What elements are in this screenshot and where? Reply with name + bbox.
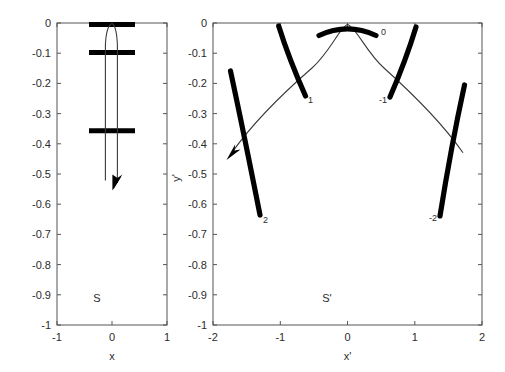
left-ytick-8: -0.8 [32,259,51,271]
left-xtick-2: 1 [164,331,170,343]
right-trajectory-arrowhead [227,144,241,160]
left-ytick-1: -0.1 [32,47,51,59]
right-wavefronts [231,26,465,216]
right-ytick-2: -0.2 [188,77,207,89]
left-x-ticks [57,23,167,325]
right-ytick-3: -0.3 [188,108,207,120]
right-xtick-3: 1 [412,331,418,343]
figure-two-frame-wavefronts: 0 -0.1 -0.2 -0.3 -0.4 -0.5 -0.6 -0.7 -0.… [0,0,505,372]
right-wavefront-1-right [390,27,416,97]
left-ytick-5: -0.5 [32,168,51,180]
right-ytick-10: -1 [197,319,207,331]
right-ytick-0: 0 [201,17,207,29]
right-wavefront-0 [319,29,376,36]
right-ytick-7: -0.7 [188,228,207,240]
right-label-1: 1 [308,95,313,105]
left-y-ticklabels: 0 -0.1 -0.2 -0.3 -0.4 -0.5 -0.6 -0.7 -0.… [32,17,51,331]
right-wavefront-2-left [231,71,261,215]
right-xtick-4: 2 [479,331,485,343]
left-ytick-6: -0.6 [32,198,51,210]
right-xtick-2: 0 [344,331,350,343]
right-ytick-1: -0.1 [188,47,207,59]
left-x-ticklabels: -1 0 1 [52,331,170,343]
left-xtick-0: -1 [52,331,62,343]
left-frame-label: S [93,292,100,304]
left-ytick-3: -0.3 [32,108,51,120]
left-ray-pair [105,24,117,184]
right-xaxis-label: x' [344,350,352,362]
right-label-0: 0 [381,27,386,37]
left-ytick-7: -0.7 [32,228,51,240]
left-ytick-9: -0.9 [32,289,51,301]
right-xtick-0: -2 [208,331,218,343]
left-ray-right [112,24,117,184]
right-frame-label: S' [322,292,331,304]
right-ray-trajectory [232,25,463,153]
left-xtick-1: 0 [109,331,115,343]
right-ytick-4: -0.4 [188,138,207,150]
right-xtick-1: -1 [275,331,285,343]
panel-left-S: 0 -0.1 -0.2 -0.3 -0.4 -0.5 -0.6 -0.7 -0.… [32,17,170,362]
right-ytick-5: -0.5 [188,168,207,180]
right-ytick-9: -0.9 [188,289,207,301]
left-y-ticks [57,23,167,325]
right-x-ticklabels: -2 -1 0 1 2 [208,331,485,343]
right-y-ticklabels: 0 -0.1 -0.2 -0.3 -0.4 -0.5 -0.6 -0.7 -0.… [188,17,207,331]
right-label-neg1: -1 [379,95,387,105]
panel-right-Sprime: 0 -0.1 -0.2 -0.3 -0.4 -0.5 -0.6 -0.7 -0.… [170,17,485,362]
right-ytick-8: -0.8 [188,259,207,271]
right-ytick-6: -0.6 [188,198,207,210]
right-yaxis-label: y' [170,174,182,182]
left-ytick-0: 0 [45,17,51,29]
left-ytick-10: -1 [41,319,51,331]
right-label-2: 2 [263,215,268,225]
left-ray-left [105,24,112,181]
left-ytick-4: -0.4 [32,138,51,150]
left-xaxis-label: x [109,350,115,362]
figure-svg: 0 -0.1 -0.2 -0.3 -0.4 -0.5 -0.6 -0.7 -0.… [0,0,505,372]
left-wavefronts [89,25,135,131]
right-label-neg2: -2 [429,213,437,223]
left-ytick-2: -0.2 [32,77,51,89]
left-axes-frame [57,23,167,325]
